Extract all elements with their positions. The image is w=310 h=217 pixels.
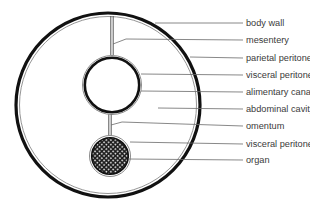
labels: body wall mesentery parietal peritoneum … <box>246 18 310 165</box>
label-organ: organ <box>246 155 270 165</box>
omentum <box>109 115 111 137</box>
leader-organ <box>128 159 243 160</box>
label-abdominal-cavity: abdominal cavity <box>246 104 310 114</box>
label-omentum: omentum <box>246 121 285 131</box>
leader-visceral-peritoneum-2 <box>130 142 243 144</box>
leader-parietal-peritoneum <box>190 57 243 58</box>
label-visceral-peritoneum-1: visceral peritoneum <box>246 70 310 80</box>
label-body-wall: body wall <box>246 18 284 28</box>
peritoneum-cross-section-diagram: body wall mesentery parietal peritoneum … <box>0 0 310 217</box>
alimentary-canal <box>83 56 142 115</box>
leader-alimentary-canal <box>141 91 243 92</box>
label-visceral-peritoneum-2: visceral peritoneum <box>246 139 310 149</box>
leader-abdominal-cavity <box>158 108 243 109</box>
leader-omentum <box>111 122 243 126</box>
label-alimentary-canal: alimentary canal <box>246 87 310 97</box>
organ <box>90 136 131 177</box>
label-mesentery: mesentery <box>246 35 289 45</box>
mesentery <box>111 16 113 55</box>
leader-visceral-peritoneum-1 <box>141 74 243 75</box>
label-parietal-peritoneum: parietal peritoneum <box>246 53 310 63</box>
